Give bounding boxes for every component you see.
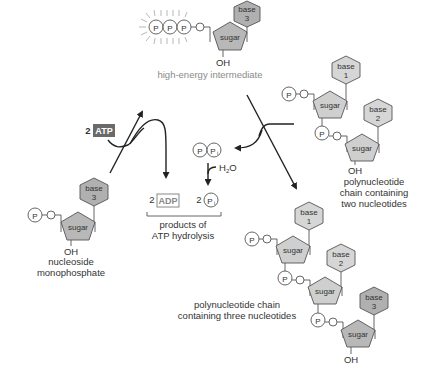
atp-count: 2 xyxy=(85,125,90,136)
hydrolysis-products: 2 ADP 2 P i products of ATP hydrolysis xyxy=(147,193,221,241)
phosphate-label: P xyxy=(315,317,320,326)
sugar-label: sugar xyxy=(320,101,340,110)
atp-input: 2 ATP xyxy=(85,124,115,137)
hydroxyl-label: OH xyxy=(216,57,230,68)
chain-two-caption: two nucleotides xyxy=(341,198,407,209)
sugar-label: sugar xyxy=(283,246,303,255)
atp-hydrolysis-caption: ATP hydrolysis xyxy=(152,230,215,241)
chain-three-caption: polynucleotide chain xyxy=(194,299,280,310)
base-label: base xyxy=(300,208,318,217)
chain-input-curve xyxy=(259,124,294,136)
hydroxyl-label: OH xyxy=(344,354,358,365)
atp-label: ATP xyxy=(95,126,112,136)
phosphate-label: P xyxy=(210,147,215,156)
base-number: 3 xyxy=(372,302,377,311)
phosphate-label: P xyxy=(32,212,37,221)
oxygen-circle xyxy=(300,90,308,98)
adp-count: 2 xyxy=(149,194,154,205)
base-number: 3 xyxy=(92,193,97,202)
nucleotide-polymerization-diagram: P P P sugar base 3 OH high-energy interm… xyxy=(0,0,421,373)
oxygen-circle xyxy=(296,276,304,284)
base-number: 1 xyxy=(307,217,312,226)
reaction-arrows-left xyxy=(108,112,166,177)
high-energy-intermediate-caption: high-energy intermediate xyxy=(157,69,262,80)
phosphate-label: P xyxy=(319,130,324,139)
hydroxyl-label: OH xyxy=(348,165,362,176)
oxygen-circle xyxy=(47,211,55,219)
sugar-label: sugar xyxy=(352,144,372,153)
sugar-label: sugar xyxy=(315,287,335,296)
phosphate-label: P xyxy=(286,91,291,100)
phosphate-label: P xyxy=(153,24,158,33)
oxygen-circle xyxy=(333,132,341,140)
base-label: base xyxy=(365,293,383,302)
pi-subscript: i xyxy=(217,150,218,156)
adp-label: ADP xyxy=(158,196,177,206)
products-caption: products of xyxy=(160,219,207,230)
base-label: base xyxy=(238,5,256,14)
high-energy-intermediate: P P P sugar base 3 OH high-energy interm… xyxy=(139,1,263,80)
water-input-curve xyxy=(208,167,216,174)
base-label: base xyxy=(337,62,355,71)
chain-elongation-arrow xyxy=(247,95,296,188)
chain-three-nucleotides: base 1 P sugar base 2 P sugar base 3 P xyxy=(178,202,388,365)
oxygen-circle xyxy=(196,23,204,31)
sugar-label: sugar xyxy=(220,33,240,42)
adp-release-arrow xyxy=(130,120,166,177)
sugar-label: sugar xyxy=(348,330,368,339)
phosphate-label: P xyxy=(181,24,186,33)
oxygen-circle xyxy=(329,318,337,326)
nucleoside-caption: nucleoside xyxy=(48,256,93,267)
base-label: base xyxy=(369,105,387,114)
phosphate-label: P xyxy=(197,147,202,156)
nucleoside-monophosphate: base 3 P sugar OH nucleoside monophospha… xyxy=(28,178,108,278)
base-label: base xyxy=(85,184,103,193)
pi-count: 2 xyxy=(196,194,201,205)
chain-two-caption: chain containing xyxy=(340,187,409,198)
phosphate-label: P xyxy=(249,236,254,245)
pyrophosphate: P P i H2O xyxy=(193,143,237,184)
base-number: 1 xyxy=(344,71,349,80)
base-number: 2 xyxy=(339,259,344,268)
chain-two-caption: polynucleotide xyxy=(344,176,405,187)
ppi-release-arrow xyxy=(236,130,262,148)
base-number: 3 xyxy=(245,14,250,23)
base-number: 2 xyxy=(376,114,381,123)
oxygen-circle xyxy=(263,235,271,243)
chain-two-nucleotides: base 1 P sugar base 2 P sugar OH polynuc… xyxy=(282,56,408,209)
phosphate-label: P xyxy=(167,24,172,33)
activation-arrow xyxy=(110,112,142,173)
chain-three-caption: containing three nucleotides xyxy=(178,310,297,321)
reaction-arrows-right xyxy=(236,95,296,188)
pi-subscript: i xyxy=(214,200,215,206)
base-label: base xyxy=(332,250,350,259)
monophosphate-caption: monophosphate xyxy=(37,267,105,278)
pi-label: P xyxy=(207,197,212,206)
water-label: H2O xyxy=(219,162,237,174)
phosphate-label: P xyxy=(282,275,287,284)
sugar-label: sugar xyxy=(68,223,88,232)
